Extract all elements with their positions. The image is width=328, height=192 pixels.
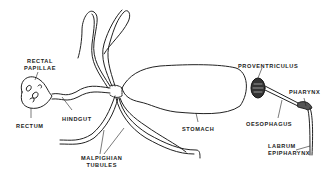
rectal-papillae-shape xyxy=(26,85,41,102)
label-rectal-papillae: RECTAL PAPILLAE xyxy=(24,58,56,71)
label-labrum-epipharynx: LABRUM EPIPHARYNX xyxy=(268,143,310,156)
diagram-drawing xyxy=(0,0,328,192)
label-pharynx: PHARYNX xyxy=(289,89,320,96)
hindgut-shape xyxy=(52,86,110,95)
digestive-tract-diagram: RECTAL PAPILLAE RECTUM HINDGUT MALPIGHIA… xyxy=(0,0,328,192)
label-malpighian-tubules: MALPIGHIAN TUBULES xyxy=(81,155,122,168)
label-hindgut: HINDGUT xyxy=(62,116,92,123)
label-rectum: RECTUM xyxy=(16,123,44,130)
stomach-shape xyxy=(122,65,246,114)
label-stomach: STOMACH xyxy=(182,126,214,133)
label-proventriculus: PROVENTRICULUS xyxy=(238,63,298,70)
label-oesophagus: OESOPHAGUS xyxy=(246,121,292,128)
